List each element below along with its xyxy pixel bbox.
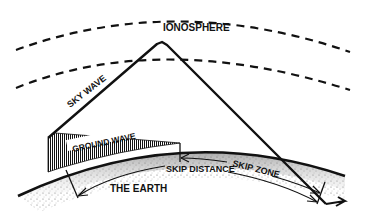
propagation-diagram: IONOSPHERE SKY WAVE GROUND WAVE SKIP ZON… <box>0 0 370 212</box>
ionosphere-label: IONOSPHERE <box>163 22 230 33</box>
ionosphere-lower-boundary <box>16 59 350 90</box>
earth-label: THE EARTH <box>110 183 167 194</box>
sky-wave-arrow-icon <box>326 197 345 206</box>
skip-distance-label: SKIP DISTANCE <box>166 164 235 174</box>
